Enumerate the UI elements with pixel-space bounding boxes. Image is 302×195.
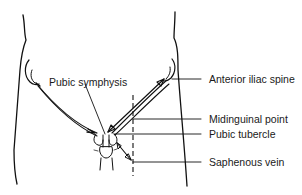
label-midinguinal-point: Midinguinal point	[209, 113, 288, 125]
pubic-bone	[94, 134, 117, 170]
saphenous-arrow	[117, 143, 131, 160]
label-pubic-tubercle: Pubic tubercle	[209, 128, 276, 140]
right-body-contour	[174, 12, 187, 186]
left-body-contour	[14, 15, 26, 184]
right-iliac-spine	[164, 59, 175, 81]
label-anterior-iliac-spine: Anterior iliac spine	[209, 73, 295, 85]
pubic-symphysis-leader	[85, 84, 105, 134]
label-saphenous-vein: Saphenous vein	[209, 156, 284, 168]
label-pubic-symphysis: Pubic symphysis	[49, 76, 127, 88]
